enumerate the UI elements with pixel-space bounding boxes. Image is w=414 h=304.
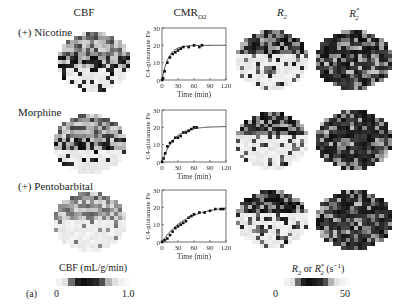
svg-text:30: 30 (175, 82, 183, 90)
svg-text:20: 20 (153, 124, 161, 132)
row-label-pentobarbital: (+) Pentobarbital (18, 180, 93, 192)
r2-colorbar (284, 278, 350, 286)
svg-text:0: 0 (160, 244, 164, 252)
r2-colorbar-min: 0 (273, 288, 278, 299)
svg-text:10: 10 (153, 221, 161, 229)
svg-text:30: 30 (175, 164, 183, 172)
r2-colorbar-max: 50 (340, 288, 350, 299)
svg-text:30: 30 (153, 187, 161, 195)
svg-text:20: 20 (153, 42, 161, 50)
svg-text:Time (min): Time (min) (177, 172, 212, 181)
r2-map-pentobarbital (236, 190, 308, 248)
r2-title-exp: −1 (334, 262, 341, 270)
svg-text:30: 30 (175, 244, 183, 252)
cmro2-sub: O2 (198, 13, 207, 21)
r2star-sub: 2 (355, 14, 359, 22)
cbf-map-nicotine (58, 32, 130, 92)
svg-text:0: 0 (160, 82, 164, 90)
svg-text:20: 20 (153, 204, 161, 212)
svg-text:10: 10 (153, 141, 161, 149)
svg-text:Time (min): Time (min) (177, 252, 212, 261)
svg-text:30: 30 (153, 25, 161, 33)
r2star-map-pentobarbital (316, 190, 392, 250)
svg-text:C4-glutamate Fe: C4-glutamate Fe (144, 31, 152, 78)
column-title-cbf: CBF (54, 6, 114, 18)
column-title-r2: R2 (262, 6, 302, 21)
r2star-map-nicotine (316, 30, 392, 90)
r2star-sup: * (356, 6, 360, 14)
svg-text:90: 90 (207, 82, 215, 90)
svg-text:Time (min): Time (min) (177, 90, 212, 99)
cmro2-plot-morphine: 01020300306090120Time (min)C4-glutamate … (140, 104, 240, 184)
svg-text:10: 10 (153, 59, 161, 67)
cbf-colorbar-title: CBF (mL/g/min) (48, 262, 138, 273)
svg-text:60: 60 (191, 82, 199, 90)
svg-text:120: 120 (221, 164, 232, 172)
cbf-map-morphine (54, 114, 126, 174)
svg-text:30: 30 (153, 107, 161, 115)
r2-title-unit: (s (324, 263, 334, 274)
column-title-r2star: R*2 (334, 6, 374, 22)
svg-text:C4-glutamate Fe: C4-glutamate Fe (144, 193, 152, 240)
panel-label: (a) (26, 288, 37, 299)
svg-text:90: 90 (207, 244, 215, 252)
r2-sub: 2 (284, 13, 288, 21)
svg-text:120: 120 (221, 244, 232, 252)
column-title-cmro2: CMRO2 (160, 6, 220, 21)
svg-text:120: 120 (221, 82, 232, 90)
r2-title-mid: or (301, 263, 314, 274)
r2-map-nicotine (236, 30, 308, 90)
cbf-colorbar-min: 0 (54, 288, 59, 299)
svg-text:0: 0 (160, 164, 164, 172)
cmro2-plot-nicotine: 01020300306090120Time (min)C4-glutamate … (140, 22, 240, 102)
r2-main: R (277, 6, 284, 18)
svg-text:90: 90 (207, 164, 215, 172)
cbf-colorbar (56, 278, 130, 286)
svg-text:60: 60 (191, 244, 199, 252)
svg-text:60: 60 (191, 164, 199, 172)
cbf-map-pentobarbital (54, 192, 126, 252)
r2-map-morphine (236, 112, 308, 170)
cmro2-main: CMR (173, 6, 197, 18)
cmro2-plot-pentobarbital: 01020300306090120Time (min)C4-glutamate … (140, 184, 240, 264)
r2-colorbar-title: R2 or R*2 (s−1) (280, 262, 356, 277)
r2-title-end: ) (341, 263, 344, 274)
cbf-colorbar-max: 1.0 (122, 288, 135, 299)
r2star-map-morphine (316, 110, 392, 170)
svg-text:C4-glutamate Fe: C4-glutamate Fe (144, 113, 152, 160)
